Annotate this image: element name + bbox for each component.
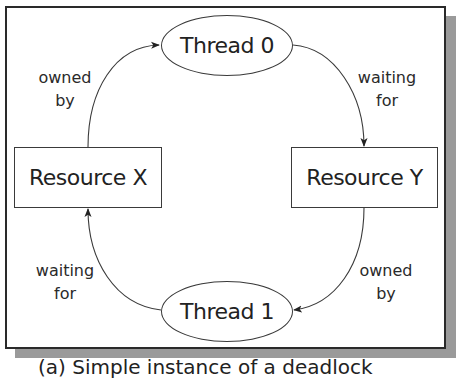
figure-caption: (a) Simple instance of a deadlock — [38, 355, 373, 379]
edge-label-line: for — [25, 282, 105, 305]
node-thread-0-label: Thread 0 — [180, 33, 274, 58]
edge-label-line: for — [347, 89, 427, 112]
node-resource-x: Resource X — [14, 147, 162, 208]
edge-label-line: owned — [25, 66, 105, 89]
edge-label-owned-by-bottom: owned by — [346, 259, 426, 305]
edge-label-line: by — [346, 282, 426, 305]
node-resource-x-label: Resource X — [29, 165, 147, 190]
node-thread-1: Thread 1 — [161, 281, 293, 342]
edge-label-line: by — [25, 89, 105, 112]
node-resource-y: Resource Y — [291, 147, 438, 208]
edge-label-line: owned — [346, 259, 426, 282]
edge-label-line: waiting — [25, 259, 105, 282]
edge-label-waiting-for-top: waiting for — [347, 66, 427, 112]
edge-label-line: waiting — [347, 66, 427, 89]
node-thread-0: Thread 0 — [161, 15, 293, 76]
edge-label-owned-by-top: owned by — [25, 66, 105, 112]
node-resource-y-label: Resource Y — [306, 165, 422, 190]
edge-label-waiting-for-bottom: waiting for — [25, 259, 105, 305]
node-thread-1-label: Thread 1 — [180, 299, 274, 324]
